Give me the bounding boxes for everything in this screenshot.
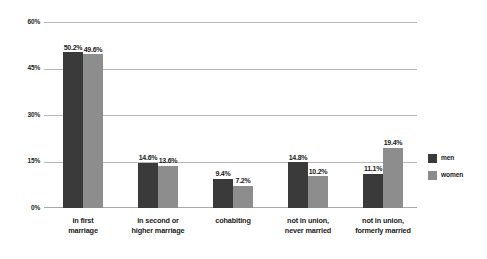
bar-men-not-in-union-formerly-married[interactable]: 11.1% — [363, 174, 383, 208]
legend-label-women: women — [441, 172, 463, 179]
bar-value-women-cohabiting: 7.2% — [226, 177, 260, 186]
grouped-bar-chart: 60% 45% 30% 15% 0% 50.2% 49.6% 14.6% 13. — [0, 0, 487, 259]
bar-men-in-first-marriage[interactable]: 50.2% — [63, 52, 83, 208]
bar-value-women-in-second-or-higher-marriage: 13.6% — [151, 157, 185, 166]
category-label-not-in-union-formerly-married: not in union, formerly married — [328, 216, 438, 236]
bar-value-women-in-first-marriage: 49.6% — [76, 46, 110, 55]
bar-group-in-first-marriage: 50.2% 49.6% — [63, 22, 103, 208]
y-tick-label-15: 15% — [6, 158, 40, 165]
bar-value-women-not-in-union-never-married: 10.2% — [301, 168, 335, 177]
y-tick-label-30: 30% — [6, 112, 40, 119]
legend-item-men[interactable]: men — [428, 152, 463, 165]
y-tick-label-0: 0% — [6, 205, 40, 212]
bar-group-not-in-union-formerly-married: 11.1% 19.4% — [363, 22, 403, 208]
bar-women-not-in-union-never-married[interactable]: 10.2% — [308, 176, 328, 208]
bar-value-women-not-in-union-formerly-married: 19.4% — [376, 139, 410, 148]
legend-item-women[interactable]: women — [428, 169, 463, 182]
legend-label-men: men — [441, 155, 454, 162]
bar-value-men-not-in-union-never-married: 14.8% — [281, 154, 315, 163]
legend-swatch-men-icon — [428, 154, 437, 163]
category-label-line2: formerly married — [328, 226, 438, 236]
bar-group-in-second-or-higher-marriage: 14.6% 13.6% — [138, 22, 178, 208]
y-tick-label-60: 60% — [6, 19, 40, 26]
bar-women-cohabiting[interactable]: 7.2% — [233, 186, 253, 208]
legend: men women — [428, 152, 463, 186]
bar-women-in-second-or-higher-marriage[interactable]: 13.6% — [158, 166, 178, 208]
y-tick-label-45: 45% — [6, 65, 40, 72]
legend-swatch-women-icon — [428, 171, 437, 180]
bar-women-not-in-union-formerly-married[interactable]: 19.4% — [383, 148, 403, 208]
bar-group-cohabiting: 9.4% 7.2% — [213, 22, 253, 208]
bar-men-in-second-or-higher-marriage[interactable]: 14.6% — [138, 163, 158, 208]
category-label-line1: not in union, — [328, 216, 438, 226]
bar-group-not-in-union-never-married: 14.8% 10.2% — [288, 22, 328, 208]
plot-area: 50.2% 49.6% 14.6% 13.6% 9.4% 7.2% — [44, 22, 417, 208]
bar-women-in-first-marriage[interactable]: 49.6% — [83, 54, 103, 208]
category-label-line2: higher marriage — [103, 226, 213, 236]
